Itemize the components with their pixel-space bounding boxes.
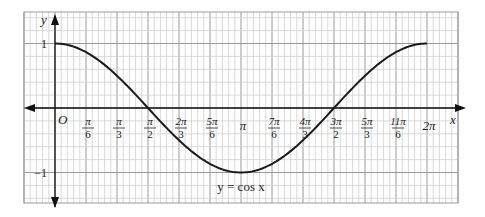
svg-text:3: 3	[178, 128, 184, 140]
cosine-graph: π6π3π22π35π6π7π64π33π25π311π62π 1−1 y x …	[0, 0, 485, 217]
svg-text:11π: 11π	[390, 115, 406, 127]
svg-text:π: π	[240, 118, 247, 133]
svg-text:π: π	[147, 115, 153, 127]
x-arrow-right-icon	[455, 104, 466, 112]
svg-text:3: 3	[302, 128, 308, 140]
svg-text:π: π	[85, 115, 91, 127]
x-tick-label: π	[240, 118, 247, 133]
svg-text:2π: 2π	[422, 118, 436, 133]
svg-text:4π: 4π	[299, 115, 311, 127]
svg-text:5π: 5π	[361, 115, 373, 127]
svg-text:2: 2	[333, 128, 339, 140]
function-label: y = cos x	[217, 179, 265, 194]
svg-text:3: 3	[116, 128, 122, 140]
svg-text:5π: 5π	[206, 115, 218, 127]
y-tick-label: −1	[34, 166, 47, 180]
y-tick-label: 1	[41, 37, 47, 51]
svg-text:6: 6	[85, 128, 91, 140]
svg-text:2: 2	[147, 128, 153, 140]
svg-text:6: 6	[209, 128, 215, 140]
svg-text:π: π	[116, 115, 122, 127]
svg-text:7π: 7π	[268, 115, 280, 127]
svg-text:6: 6	[395, 128, 401, 140]
y-axis-label: y	[39, 12, 47, 27]
x-axis-label: x	[449, 112, 456, 127]
x-tick-labels: π6π3π22π35π6π7π64π33π25π311π62π	[82, 115, 436, 140]
svg-text:3: 3	[364, 128, 370, 140]
x-arrow-left-icon	[24, 104, 35, 112]
y-arrow-up-icon	[51, 14, 59, 25]
x-tick-label: 2π	[422, 118, 436, 133]
svg-text:6: 6	[271, 128, 277, 140]
x-tick-label: 11π6	[390, 115, 406, 140]
svg-text:2π: 2π	[175, 115, 187, 127]
svg-text:3π: 3π	[329, 115, 342, 127]
origin-label: O	[58, 112, 68, 127]
